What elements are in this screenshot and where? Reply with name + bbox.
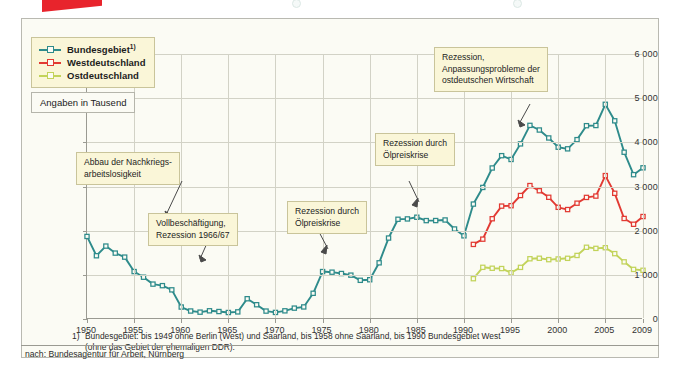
data-point-marker bbox=[622, 150, 626, 154]
data-point-marker bbox=[613, 252, 617, 256]
y-tick-label: 3 000 bbox=[600, 182, 658, 192]
source-credit: nach: Bundesagentur für Arbeit, Nürnberg bbox=[25, 349, 184, 359]
data-point-marker bbox=[518, 193, 522, 197]
data-point-marker bbox=[518, 265, 522, 269]
data-point-marker bbox=[443, 218, 447, 222]
legend-swatch-icon bbox=[39, 58, 61, 67]
annotation-line: Abbau der Nachkriegs- bbox=[84, 157, 172, 169]
data-point-marker bbox=[566, 147, 570, 151]
data-point-marker bbox=[198, 310, 202, 314]
data-point-marker bbox=[500, 154, 504, 158]
x-tick bbox=[417, 319, 418, 323]
data-point-marker bbox=[500, 204, 504, 208]
gridline-vertical bbox=[417, 54, 418, 318]
gridline-vertical bbox=[511, 54, 512, 318]
annotation-rezession-ostdeutsche-wirtschaft: Rezession, Anpassungsprobleme der ostdeu… bbox=[434, 47, 548, 92]
data-point-marker bbox=[245, 297, 249, 301]
data-point-marker bbox=[584, 124, 588, 128]
source-divider bbox=[21, 345, 659, 346]
data-point-marker bbox=[236, 310, 240, 314]
data-point-marker bbox=[434, 218, 438, 222]
red-arrow-decoration bbox=[42, 0, 102, 12]
y-tick-label: 1 000 bbox=[600, 270, 658, 280]
data-point-marker bbox=[481, 265, 485, 269]
plot-area bbox=[86, 54, 642, 319]
data-point-marker bbox=[490, 217, 494, 221]
data-point-marker bbox=[584, 245, 588, 249]
data-point-marker bbox=[537, 256, 541, 260]
data-point-marker bbox=[386, 236, 390, 240]
data-point-marker bbox=[255, 303, 259, 307]
data-point-marker bbox=[283, 309, 287, 313]
annotation-line: ostdeutschen Wirtschaft bbox=[442, 75, 540, 87]
data-point-marker bbox=[311, 291, 315, 295]
data-point-marker bbox=[547, 136, 551, 140]
data-point-marker bbox=[613, 191, 617, 195]
data-point-marker bbox=[94, 254, 98, 258]
x-tick bbox=[87, 319, 88, 323]
y-tick-label: 0 bbox=[600, 314, 658, 324]
annotation-line: Ölpreiskrise bbox=[383, 150, 447, 162]
x-tick bbox=[558, 319, 559, 323]
decorative-dot bbox=[292, 0, 301, 8]
annotation-rezession-oelpreiskrise-1: Rezession durch Ölpreiskrise bbox=[287, 201, 367, 234]
x-tick bbox=[464, 319, 465, 323]
data-point-marker bbox=[207, 309, 211, 313]
data-point-marker bbox=[622, 260, 626, 264]
legend-swatch-icon bbox=[39, 45, 61, 54]
data-point-marker bbox=[528, 123, 532, 127]
y-tick-label: 4 000 bbox=[600, 137, 658, 147]
decorative-dot bbox=[513, 0, 522, 8]
annotation-line: Rezession 1966/67 bbox=[156, 230, 230, 242]
gridline-vertical bbox=[228, 54, 229, 318]
data-point-marker bbox=[594, 246, 598, 250]
data-point-marker bbox=[481, 237, 485, 241]
data-point-marker bbox=[151, 282, 155, 286]
data-point-marker bbox=[622, 216, 626, 220]
annotation-line: arbeitslosigkeit bbox=[84, 169, 172, 181]
x-tick bbox=[511, 319, 512, 323]
data-point-marker bbox=[594, 194, 598, 198]
legend-swatch-icon bbox=[39, 71, 61, 80]
data-point-marker bbox=[547, 195, 551, 199]
data-point-marker bbox=[631, 173, 635, 177]
data-point-marker bbox=[575, 253, 579, 257]
data-point-marker bbox=[471, 202, 475, 206]
x-tick bbox=[275, 319, 276, 323]
y-tick bbox=[83, 187, 87, 188]
data-point-marker bbox=[292, 306, 296, 310]
legend-item-ostdeutschland: Ostdeutschland bbox=[39, 69, 145, 82]
data-point-marker bbox=[575, 138, 579, 142]
footnote-line: Bundesgebiet: bis 1949 ohne Berlin (West… bbox=[85, 331, 642, 342]
legend-item-bundesgebiet: Bundesgebiet1) bbox=[39, 43, 145, 56]
annotation-abbau-nachkriegsarbeitslosigkeit: Abbau der Nachkriegs- arbeitslosigkeit bbox=[76, 152, 180, 185]
y-tick-label: 6 000 bbox=[600, 49, 658, 59]
data-point-marker bbox=[377, 261, 381, 265]
data-point-marker bbox=[584, 195, 588, 199]
data-point-marker bbox=[500, 266, 504, 270]
data-point-marker bbox=[330, 270, 334, 274]
annotation-rezession-oelpreiskrise-2: Rezession durch Ölpreiskrise bbox=[375, 133, 455, 166]
data-point-marker bbox=[537, 128, 541, 132]
annotation-line: Vollbeschäftigung, bbox=[156, 218, 230, 230]
data-point-marker bbox=[594, 123, 598, 127]
annotation-vollbeschaeftigung: Vollbeschäftigung, Rezession 1966/67 bbox=[148, 213, 238, 246]
data-point-marker bbox=[424, 219, 428, 223]
data-point-marker bbox=[217, 309, 221, 313]
data-point-marker bbox=[264, 309, 268, 313]
gridline-vertical bbox=[370, 54, 371, 318]
y-tick bbox=[83, 231, 87, 232]
gridline-vertical bbox=[464, 54, 465, 318]
data-point-marker bbox=[104, 244, 108, 248]
data-point-marker bbox=[170, 288, 174, 292]
data-point-marker bbox=[160, 284, 164, 288]
data-point-marker bbox=[189, 309, 193, 313]
data-point-marker bbox=[396, 217, 400, 221]
y-tick-label: 5 000 bbox=[600, 93, 658, 103]
x-tick bbox=[181, 319, 182, 323]
data-point-marker bbox=[537, 189, 541, 193]
annotation-line: Rezession durch bbox=[295, 206, 359, 218]
gridline-vertical bbox=[181, 54, 182, 318]
annotation-line: Ölpreiskrise bbox=[295, 218, 359, 230]
data-point-marker bbox=[490, 266, 494, 270]
